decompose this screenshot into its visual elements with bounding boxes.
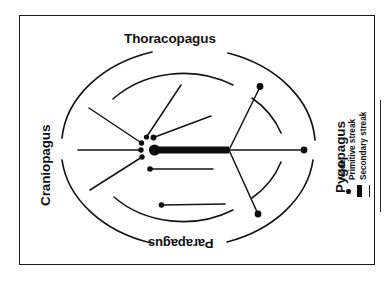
legend-labels: Node Primitive streak Secondary streak [344, 108, 378, 180]
node-middle-horizontal-base [147, 166, 153, 172]
node-left-middle [138, 147, 143, 152]
legend-label-secondary-streak: Secondary streak [359, 112, 368, 180]
inner-arc-right-lower [252, 162, 281, 198]
node-lower-right-end [255, 211, 262, 218]
legend-secondary-streak-line-icon [369, 185, 370, 197]
secondary-streak-left-lower [90, 157, 142, 190]
secondary-streak-bottom-horizontal [162, 204, 226, 205]
legend-markers [344, 184, 378, 200]
node-upper-shallow-base [151, 135, 157, 141]
figure-panel: Thoracopagus Parapagus Craniopagus Pygop… [0, 0, 389, 290]
inner-arc-top [113, 73, 233, 99]
label-thoracopagus: Thoracopagus [124, 31, 216, 46]
secondary-streak-fork-upper-right [229, 87, 260, 150]
legend-node-dot-icon [346, 189, 351, 194]
inner-arc-bottom [114, 197, 233, 222]
node-bottom-horizontal-base [159, 202, 165, 208]
legend-label-primitive-streak: Primitive streak [348, 119, 357, 180]
secondary-streak-left-upper [89, 108, 142, 143]
node-left-lower [139, 154, 144, 159]
node-upper-steep-base [144, 134, 149, 139]
node-upper-right-end [257, 83, 264, 90]
legend-primitive-streak-bar-icon [357, 185, 362, 197]
node-right-end [301, 147, 308, 154]
node-main-large [149, 144, 160, 155]
label-craniopagus: Craniopagus [38, 125, 53, 206]
legend-divider-rule [380, 100, 381, 212]
legend-label-node: Node [338, 160, 347, 180]
inner-arc-right-upper [252, 98, 281, 133]
secondary-streak-fork-lower-right [229, 150, 258, 214]
label-parapagus: Parapagus [148, 236, 214, 251]
outer-arc-top-left [62, 52, 152, 138]
node-left-upper [139, 140, 144, 145]
outer-arc-bottom-left [62, 160, 151, 243]
legend: Node Primitive streak Secondary streak [344, 108, 378, 208]
secondary-streak-upper-shallow [154, 116, 212, 138]
